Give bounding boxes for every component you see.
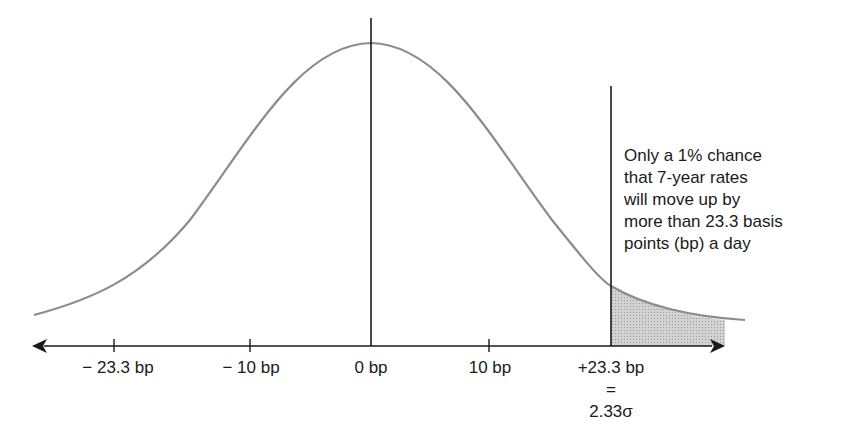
tail-annotation: Only a 1% chance that 7-year rates will …: [624, 145, 783, 255]
tick-label-minus-10: − 10 bp: [222, 358, 279, 378]
annotation-line-5: points (bp) a day: [624, 233, 783, 255]
sigma-label: 2.33σ: [589, 402, 633, 422]
annotation-line-1: Only a 1% chance: [624, 145, 783, 167]
annotation-line-3: will move up by: [624, 189, 783, 211]
tick-label-zero: 0 bp: [354, 358, 387, 378]
annotation-line-2: that 7-year rates: [624, 167, 783, 189]
tick-label-plus-10: 10 bp: [469, 358, 512, 378]
equals-sign: =: [606, 380, 616, 400]
tick-label-minus-23-3: − 23.3 bp: [82, 358, 153, 378]
annotation-line-4: more than 23.3 basis: [624, 211, 783, 233]
tick-label-plus-23-3: +23.3 bp: [578, 358, 645, 378]
